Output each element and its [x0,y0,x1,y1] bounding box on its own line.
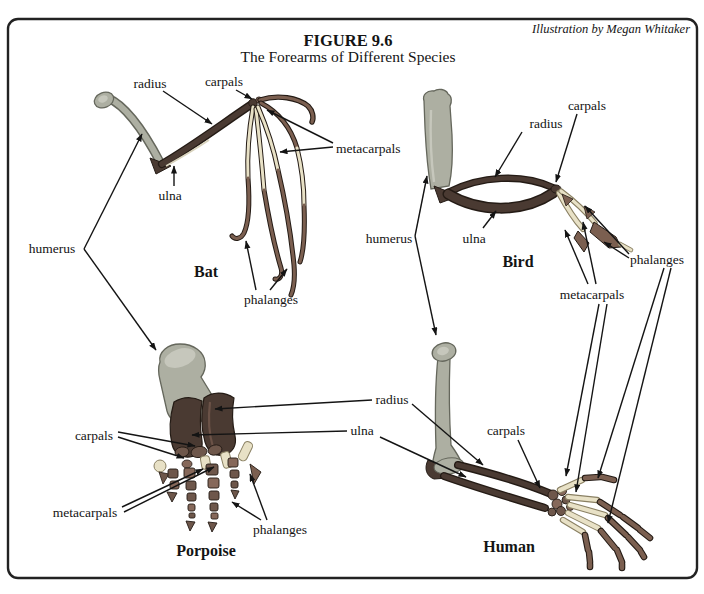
figure-page: FIGURE 9.6 The Forearms of Different Spe… [0,0,704,594]
ulna-mid-label: ulna [350,423,373,438]
porpoise-metacarpals-label: metacarpals [53,505,117,520]
porpoise-name-label: Porpoise [176,542,236,560]
bat-radius-label: radius [134,76,167,91]
human-name-label: Human [483,538,535,555]
humerus-right-label: humerus [366,231,413,246]
humerus-left-label: humerus [29,241,76,256]
porpoise-carpal-bone [182,460,192,468]
phalanges-shared-label: phalanges [630,252,684,267]
illustration-credit: Illustration by Megan Whitaker [531,22,690,36]
radius-mid-label: radius [376,392,409,407]
porpoise-carpals-label: carpals [75,428,113,443]
bat-ulna-label: ulna [158,188,181,203]
porpoise-carpal-bone [154,460,166,472]
bat-phalanges-label: phalanges [244,292,298,307]
bat-name-label: Bat [194,263,219,280]
bat-carpals-label: carpals [205,74,243,89]
bird-name-label: Bird [502,253,533,270]
bird-ulna-label: ulna [462,231,485,246]
bird-radius-label: radius [530,116,563,131]
metacarpals-shared-label: metacarpals [560,287,624,302]
figure-subtitle: The Forearms of Different Species [241,48,456,65]
human-carpals-label: carpals [487,423,525,438]
bird-carpals-label: carpals [568,98,606,113]
porpoise-phalanges-label: phalanges [253,522,307,537]
bat-metacarpals-label: metacarpals [336,141,400,156]
